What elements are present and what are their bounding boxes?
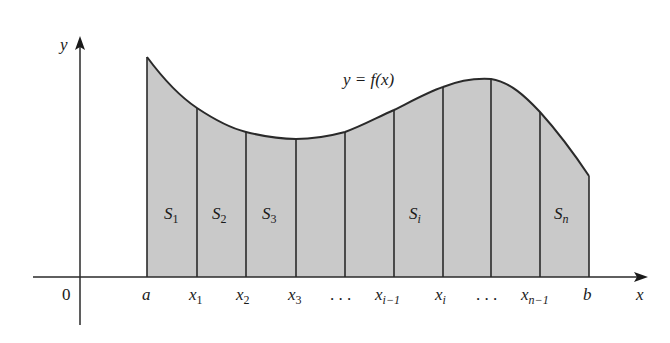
tick-ellipsis-2: . . . bbox=[476, 285, 497, 304]
area-strips-diagram: y x 0 y = f(x) S1 S2 S3 Si Sn a x1 x2 x3… bbox=[0, 0, 670, 343]
y-axis-label: y bbox=[58, 35, 68, 54]
tick-x1: x1 bbox=[188, 285, 203, 307]
tick-xi-minus-1: xi−1 bbox=[374, 285, 400, 307]
tick-x2: x2 bbox=[235, 285, 250, 307]
tick-xi: xi bbox=[434, 285, 446, 307]
tick-a: a bbox=[142, 285, 151, 304]
x-tick-labels: a x1 x2 x3 . . . xi−1 xi . . . xn−1 b bbox=[142, 285, 592, 307]
origin-label: 0 bbox=[62, 285, 71, 304]
x-axis-label: x bbox=[635, 285, 644, 304]
tick-xn-minus-1: xn−1 bbox=[520, 285, 549, 307]
tick-x3: x3 bbox=[287, 285, 302, 307]
tick-b: b bbox=[583, 285, 592, 304]
shaded-area bbox=[147, 57, 589, 277]
tick-ellipsis-1: . . . bbox=[330, 285, 351, 304]
curve-label: y = f(x) bbox=[341, 70, 394, 89]
